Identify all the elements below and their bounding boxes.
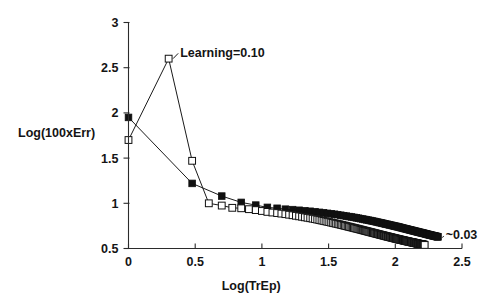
- data-point-filled: [218, 193, 225, 200]
- data-point-filled: [189, 180, 196, 187]
- data-point-open: [165, 55, 172, 62]
- annotation-label: ~0.03: [446, 228, 478, 242]
- annotation-leader-line: [173, 53, 178, 58]
- data-point-filled: [435, 234, 442, 241]
- series-group: [125, 55, 441, 248]
- data-point-open: [205, 200, 212, 207]
- data-point-open: [246, 206, 253, 213]
- annotation-1: Learning=0.10: [173, 46, 265, 60]
- annotation-leader-line: [442, 236, 443, 238]
- data-point-open: [229, 204, 236, 211]
- y-tick-label: 0.5: [101, 242, 118, 256]
- y-tick-label: 2.5: [101, 61, 118, 75]
- y-tick-label: 1: [112, 197, 119, 211]
- data-point-open: [238, 205, 245, 212]
- series-1: [125, 114, 441, 240]
- x-tick-label: 0.5: [187, 255, 204, 269]
- y-tick-label: 2: [112, 106, 119, 120]
- x-tick-label: 2.5: [453, 255, 470, 269]
- chart-figure: 00.511.522.50.511.522.53Log(TrEp)Log(100…: [0, 0, 487, 307]
- data-point-open: [189, 157, 196, 164]
- x-tick-label: 1: [258, 255, 265, 269]
- annotation-2: ~0.03: [442, 228, 477, 242]
- x-tick-label: 2: [392, 255, 399, 269]
- data-point-open: [218, 202, 225, 209]
- y-tick-label: 3: [112, 16, 119, 30]
- x-axis-title: Log(TrEp): [222, 279, 281, 293]
- y-axis-title: Log(100xErr): [18, 126, 95, 140]
- annotation-label: Learning=0.10: [180, 46, 264, 60]
- data-point-open: [421, 242, 428, 249]
- line-chart: 00.511.522.50.511.522.53Log(TrEp)Log(100…: [0, 0, 487, 307]
- series-line: [129, 117, 438, 236]
- series-line: [129, 59, 425, 245]
- y-tick-label: 1.5: [101, 152, 118, 166]
- x-tick-label: 1.5: [320, 255, 337, 269]
- x-tick-label: 0: [125, 255, 132, 269]
